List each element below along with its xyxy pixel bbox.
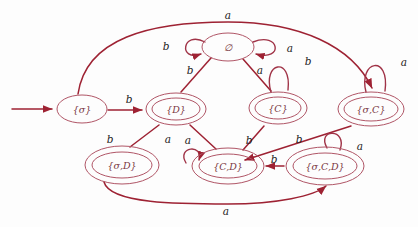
state-D[interactable]: {D} (146, 93, 206, 125)
edge-label-D-CD: a (165, 133, 171, 145)
edge-label-empty-C: a (257, 64, 263, 76)
state-sigmaCD-label: {σ,C,D} (305, 161, 344, 172)
state-sigmaCD[interactable]: {σ,C,D} (286, 147, 364, 185)
state-C-label: {C} (268, 103, 287, 114)
edge-label-sigmaCD-CD: b (271, 153, 278, 165)
state-CD-label: {C,D} (213, 161, 243, 172)
edge-label-sigma-sigmaC: a (225, 9, 231, 21)
state-CD[interactable]: {C,D} (192, 148, 264, 184)
automaton-diagram-canvas: {σ} ∅ {D} {C} {σ,C} {σ,D} (0, 0, 418, 227)
edge-label-empty-D: b (187, 64, 194, 76)
selfloop-empty-a (253, 40, 275, 56)
selfloop-sigmaC-a (365, 66, 386, 92)
edge-D-to-sigmaD (130, 125, 159, 147)
state-C[interactable]: {C} (249, 92, 307, 124)
edge-label-CD-loop-a: a (185, 134, 191, 146)
edge-sigmaD-to-sigmaCD (104, 182, 326, 204)
edge-label-C-CD: b (246, 134, 253, 146)
state-sigma-label: {σ} (73, 104, 92, 115)
selfloop-C-b (269, 67, 288, 92)
state-empty-label: ∅ (224, 42, 233, 53)
edge-label-sigmaCD-loop-a: a (357, 140, 363, 152)
edge-label-sigma-D: b (126, 93, 133, 105)
state-sigmaD[interactable]: {σ,D} (85, 146, 159, 184)
edge-D-to-CD (190, 125, 216, 149)
state-sigmaD-label: {σ,D} (107, 160, 136, 171)
edge-label-empty-loop-b: b (163, 40, 170, 52)
edge-label-sigmaC-CD: b (296, 133, 303, 145)
state-sigmaC-label: {σ,C} (357, 104, 386, 115)
edge-label-C-loop-b: b (305, 55, 312, 67)
state-empty[interactable]: ∅ (202, 33, 254, 61)
state-sigmaC[interactable]: {σ,C} (338, 92, 404, 126)
edge-label-empty-loop-a: a (287, 42, 293, 54)
edge-label-D-sigmaD: b (107, 133, 114, 145)
edge-empty-to-D (181, 58, 211, 92)
edge-label-sigmaC-loop-a: a (401, 56, 407, 68)
state-sigma[interactable]: {σ} (57, 95, 107, 123)
automaton-svg: {σ} ∅ {D} {C} {σ,C} {σ,D} (0, 0, 418, 227)
edge-label-sigmaD-sigmaCD: a (223, 205, 229, 217)
state-D-label: {D} (166, 104, 186, 115)
